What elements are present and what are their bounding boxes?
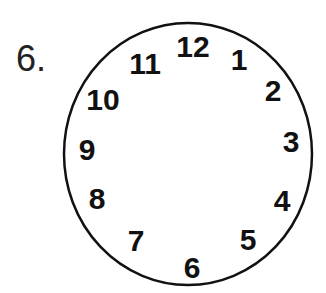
numeral-1: 1 bbox=[231, 43, 248, 76]
numeral-5: 5 bbox=[240, 223, 257, 256]
numeral-7: 7 bbox=[128, 224, 145, 257]
numeral-4: 4 bbox=[274, 184, 291, 217]
numeral-11: 11 bbox=[129, 47, 161, 80]
clock-numerals: 121234567891011 bbox=[79, 30, 300, 284]
numeral-3: 3 bbox=[283, 125, 300, 158]
numeral-2: 2 bbox=[265, 74, 282, 107]
numeral-12: 12 bbox=[176, 30, 209, 63]
numeral-6: 6 bbox=[184, 251, 201, 284]
clock-face: 121234567891011 bbox=[0, 0, 326, 293]
numeral-9: 9 bbox=[79, 133, 96, 166]
numeral-8: 8 bbox=[89, 182, 106, 215]
numeral-10: 10 bbox=[86, 83, 119, 116]
